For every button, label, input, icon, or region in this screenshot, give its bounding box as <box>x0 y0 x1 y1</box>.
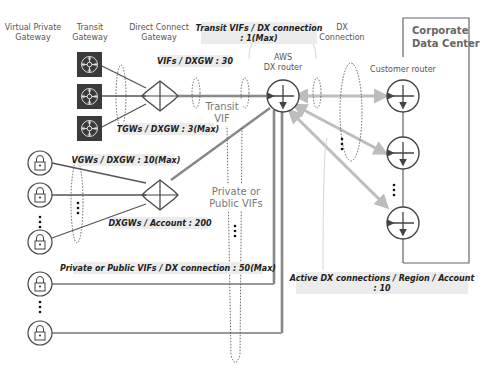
header-vgw-1: Virtual Private <box>5 23 62 32</box>
header-aws-router-1: AWS <box>274 53 292 62</box>
header-dxgw-1: Direct Connect <box>129 23 189 32</box>
customer-router-icon[interactable] <box>387 207 419 239</box>
svg-text:: 1(Max): : 1(Max) <box>240 34 277 43</box>
dx-quota-diagram: Corporate Data Center Virtual Private Ga… <box>0 0 485 371</box>
transit-vif-label-2: VIF <box>214 113 230 124</box>
quota-vgws-per-dxgw: VGWs / DXGW : 10(Max) <box>72 154 181 166</box>
quota-tgws-per-dxgw: TGWs / DXGW : 3(Max) <box>117 123 219 135</box>
header-aws-router-2: DX router <box>264 63 303 72</box>
corporate-label-2: Data Center <box>412 38 480 49</box>
header-tgw-1: Transit <box>76 23 104 32</box>
svg-text:Active DX connections / Region: Active DX connections / Region / Account <box>289 274 476 283</box>
header-customer-router: Customer router <box>370 65 437 74</box>
customer-router-icon[interactable] <box>387 80 419 112</box>
quota-vifs-per-dxgw: VIFs / DXGW : 30 <box>157 55 233 67</box>
vgw-stack <box>28 151 52 345</box>
svg-text:DXGWs / Account : 200: DXGWs / Account : 200 <box>108 219 211 228</box>
lock-icon[interactable] <box>28 151 52 175</box>
lock-icon[interactable] <box>28 321 52 345</box>
header-dxgw-2: Gateway <box>141 33 177 42</box>
quota-dxgws-per-account: DXGWs / Account : 200 <box>108 217 211 229</box>
dxgw-arrows-icon[interactable] <box>142 81 178 111</box>
svg-text:TGWs / DXGW : 3(Max): TGWs / DXGW : 3(Max) <box>117 125 219 134</box>
quota-transit-vifs-per-dx: Transit VIFs / DX connection : 1(Max) <box>196 22 323 44</box>
lock-icon[interactable] <box>28 230 52 254</box>
header-dx-connection-2: Connection <box>319 33 364 42</box>
quota-private-public-vifs-per-dx: Private or Public VIFs / DX connection :… <box>60 262 276 274</box>
customer-router-icon[interactable] <box>387 137 419 169</box>
header-dx-connection-1: DX <box>336 23 348 32</box>
lock-icon[interactable] <box>28 183 52 207</box>
transit-gateway-stack <box>77 52 102 141</box>
header-tgw-2: Gateway <box>72 33 108 42</box>
svg-text:VGWs / DXGW : 10(Max): VGWs / DXGW : 10(Max) <box>72 156 181 165</box>
lock-icon[interactable] <box>28 272 52 296</box>
header-vgw-2: Gateway <box>15 33 51 42</box>
private-public-vifs-label-2: Public VIFs <box>209 198 263 209</box>
transit-vif-label-1: Transit <box>204 101 238 112</box>
quota-active-dx-connections: Active DX connections / Region / Account… <box>289 272 476 294</box>
tgw-hub-icon[interactable] <box>77 52 102 77</box>
private-public-vifs-label-1: Private or <box>212 186 261 197</box>
aws-dx-router-icon[interactable] <box>267 80 299 112</box>
tgw-dxgw-lines <box>102 66 146 127</box>
svg-text:: 10: : 10 <box>373 284 391 293</box>
tgw-hub-icon[interactable] <box>77 84 102 109</box>
svg-text:VIFs / DXGW : 30: VIFs / DXGW : 30 <box>157 57 233 66</box>
corporate-label-1: Corporate <box>412 25 469 36</box>
active-dx-label-connector <box>323 138 327 270</box>
dx-connection-lines <box>294 96 385 205</box>
svg-text:Private or Public VIFs / DX co: Private or Public VIFs / DX connection :… <box>60 264 276 273</box>
dxgw-arrows-icon[interactable] <box>142 180 178 210</box>
tgw-hub-icon[interactable] <box>77 116 102 141</box>
svg-text:Transit VIFs / DX connection: Transit VIFs / DX connection <box>196 24 323 33</box>
